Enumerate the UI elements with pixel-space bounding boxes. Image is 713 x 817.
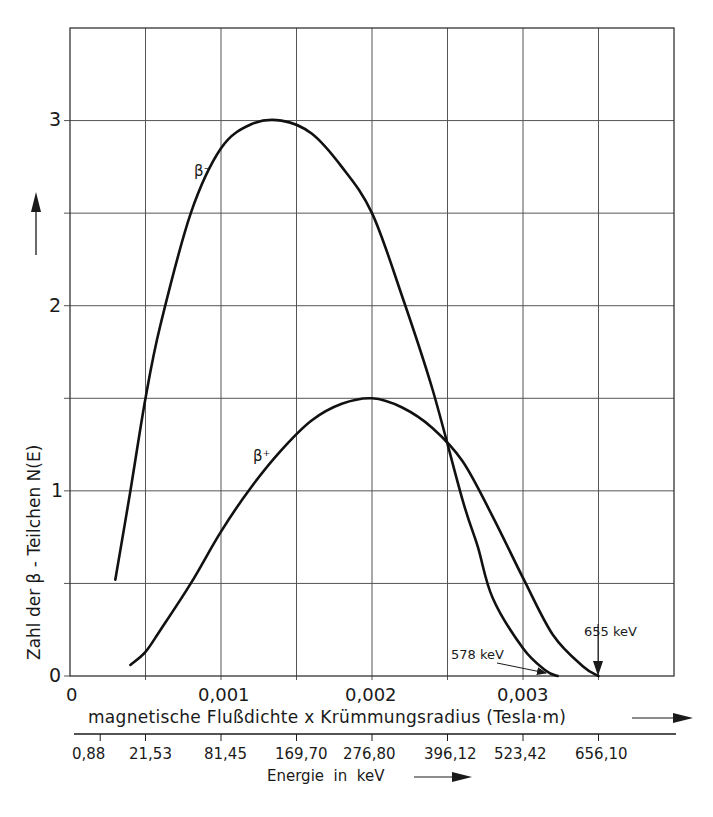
x-axis-arrowhead-icon	[673, 713, 693, 723]
energy-tick-label: 0,88	[72, 745, 105, 763]
y-axis-title: Zahl der β - Teilchen N(E)	[24, 445, 44, 660]
beta-plus-curve	[130, 398, 598, 676]
endpoint-578-label: 578 keV	[451, 647, 504, 662]
y-tick-1: 1	[51, 479, 63, 501]
energy-axis-arrowhead-icon	[452, 772, 472, 782]
endpoint-655-label: 655 keV	[584, 624, 637, 639]
x-tick-0-003: 0,003	[497, 684, 549, 705]
beta-plus-label: β⁺	[253, 447, 271, 465]
x-tick-0: 0	[66, 684, 77, 705]
x-axis-title: magnetische Flußdichte x Krümmungsradius…	[88, 707, 566, 727]
beta-minus-label: β⁻	[194, 162, 212, 180]
energy-tick-label: 276,80	[343, 745, 396, 763]
x-tick-0-002: 0,002	[345, 684, 397, 705]
energy-tick-label: 81,45	[204, 745, 247, 763]
energy-tick-label: 396,12	[424, 745, 477, 763]
y-tick-2: 2	[49, 294, 61, 316]
energy-tick-label: 169,70	[275, 745, 328, 763]
y-tick-3: 3	[49, 108, 61, 130]
energy-tick-label: 21,53	[129, 745, 172, 763]
energy-tick-label: 656,10	[575, 745, 628, 763]
energy-axis-title: Energie in keV	[267, 767, 384, 785]
x-tick-0-001: 0,001	[198, 684, 250, 705]
energy-axis-ticks	[100, 734, 598, 741]
energy-tick-label: 523,42	[494, 745, 547, 763]
grid	[64, 28, 674, 680]
y-axis-arrowhead-icon	[31, 192, 41, 212]
y-tick-0: 0	[49, 664, 61, 686]
